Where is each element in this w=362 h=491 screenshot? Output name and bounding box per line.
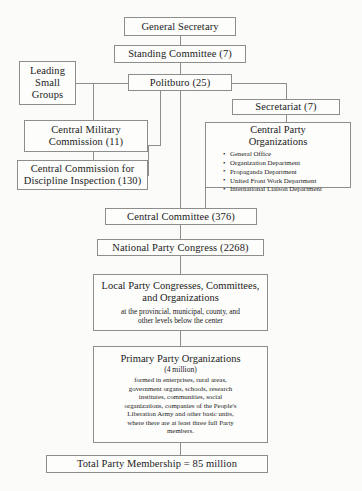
local-party-congresses-content: Local Party Congresses, Committees, and …	[94, 280, 267, 325]
edge-leading-small-groups-politburo	[76, 83, 128, 84]
node-politburo-label: Politburo (25)	[150, 77, 211, 89]
node-central-military-commission-label: Central Military Commission (11)	[49, 124, 123, 148]
list-item: General Office	[223, 150, 350, 159]
node-central-committee-label: Central Committee (376)	[127, 211, 235, 223]
central-party-organizations-list: General Office Organization Department P…	[215, 150, 350, 194]
list-item: United Front Work Department	[223, 177, 350, 186]
node-discipline-inspection-label: Central Commission for Discipline Inspec…	[24, 163, 142, 187]
node-leading-small-groups[interactable]: Leading Small Groups	[19, 61, 76, 105]
node-secretariat[interactable]: Secretariat (7)	[232, 99, 340, 115]
edge-politburo-ccdi-vertical	[148, 145, 149, 175]
edge-politburo-secretariat-horizontal	[232, 83, 287, 84]
node-primary-party-organizations-detail: formed in enterprises, rural areas, gove…	[125, 376, 237, 436]
edge-national-congress-local-congresses	[180, 256, 181, 274]
central-party-organizations-list-wrap: General Office Organization Department P…	[206, 148, 350, 194]
node-total-party-membership-label: Total Party Membership = 85 million	[77, 458, 237, 470]
node-central-military-commission[interactable]: Central Military Commission (11)	[24, 120, 148, 152]
node-total-party-membership[interactable]: Total Party Membership = 85 million	[46, 455, 268, 473]
edge-politburo-cmc-vertical	[160, 90, 161, 145]
edge-primary-organizations-total-membership	[180, 443, 181, 455]
edge-politburo-secretariat-vertical	[286, 83, 287, 100]
node-primary-party-organizations-label: Primary Party Organizations	[121, 353, 241, 366]
node-national-party-congress-label: National Party Congress (2268)	[112, 242, 248, 254]
node-local-party-congresses[interactable]: Local Party Congresses, Committees, and …	[93, 274, 268, 331]
node-central-party-organizations-label: Central Party Organizations	[206, 124, 350, 148]
node-secretariat-label: Secretariat (7)	[255, 101, 316, 113]
node-discipline-inspection[interactable]: Central Commission for Discipline Inspec…	[17, 160, 148, 190]
node-politburo[interactable]: Politburo (25)	[128, 74, 232, 91]
node-local-party-congresses-detail: at the provincial, municipal, county, an…	[121, 307, 240, 325]
node-central-committee[interactable]: Central Committee (376)	[105, 208, 257, 225]
node-primary-party-organizations-count: (4 million)	[164, 365, 197, 375]
node-standing-committee-label: Standing Committee (7)	[128, 48, 232, 60]
list-item: Organization Department	[223, 159, 350, 168]
node-local-party-congresses-label: Local Party Congresses, Committees, and …	[94, 280, 267, 305]
edge-local-congresses-primary-organizations	[180, 331, 181, 346]
node-general-secretary[interactable]: General Secretary	[124, 17, 236, 36]
org-chart-diagram: General Secretary Standing Committee (7)…	[0, 0, 362, 491]
node-standing-committee[interactable]: Standing Committee (7)	[114, 45, 246, 63]
edge-central-committee-national-congress	[180, 225, 181, 239]
node-general-secretary-label: General Secretary	[141, 21, 218, 33]
primary-party-organizations-content: Primary Party Organizations (4 million) …	[94, 353, 267, 436]
node-leading-small-groups-label: Leading Small Groups	[30, 65, 65, 101]
list-item: Propaganda Department	[223, 168, 350, 177]
list-item: International Liaison Department	[223, 185, 350, 194]
node-primary-party-organizations[interactable]: Primary Party Organizations (4 million) …	[93, 346, 268, 443]
node-national-party-congress[interactable]: National Party Congress (2268)	[97, 239, 264, 256]
edge-politburo-central-committee	[180, 90, 181, 208]
node-central-party-organizations[interactable]: Central Party Organizations General Offi…	[205, 122, 351, 188]
edge-politburo-ccdi-elbow	[148, 145, 161, 146]
